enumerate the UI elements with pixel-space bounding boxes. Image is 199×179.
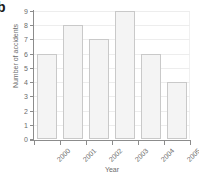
x-axis-tick — [86, 141, 87, 145]
y-axis-tick-label-wrap: 1 — [10, 122, 28, 129]
x-axis-tick — [138, 141, 139, 145]
y-axis-tick-label: 1 — [10, 122, 28, 129]
plot-right-border — [189, 11, 190, 139]
x-axis-tick — [164, 141, 165, 145]
plot-area — [34, 11, 190, 139]
y-axis-tick — [30, 11, 34, 12]
gridline — [34, 39, 190, 40]
gridline — [34, 25, 190, 26]
y-axis-tick-label: 2 — [10, 108, 28, 115]
x-axis-tick-label: 2005 — [186, 147, 199, 164]
x-axis-tick-label: 2001 — [82, 147, 99, 164]
panel-label: b — [0, 0, 6, 14]
x-axis-tick — [60, 141, 61, 145]
x-axis-tick-label: 2000 — [56, 147, 73, 164]
x-axis-tick — [34, 141, 35, 145]
bar — [37, 54, 58, 139]
x-axis-title: Year — [34, 166, 190, 174]
x-axis-line — [30, 140, 191, 141]
bar — [115, 11, 136, 139]
y-axis-tick — [30, 68, 34, 69]
bar — [89, 39, 110, 139]
y-axis-tick-label-wrap: 2 — [10, 108, 28, 115]
y-axis-tick — [30, 39, 34, 40]
y-axis-tick-label: 0 — [10, 136, 28, 143]
y-axis-tick — [30, 111, 34, 112]
y-axis-tick — [30, 54, 34, 55]
bar — [141, 54, 162, 139]
bar — [63, 25, 84, 139]
y-axis-tick — [30, 125, 34, 126]
y-axis-tick — [30, 25, 34, 26]
bar-chart-figure: b 0123456789 Number of accidents 2000200… — [0, 0, 199, 179]
x-axis-tick-label: 2002 — [108, 147, 125, 164]
x-axis-tick — [190, 141, 191, 145]
bar — [167, 82, 188, 139]
y-axis-line — [33, 10, 34, 140]
gridline — [34, 54, 190, 55]
y-axis-tick — [30, 82, 34, 83]
x-axis-tick — [112, 141, 113, 145]
y-axis-tick-label-wrap: 0 — [10, 136, 28, 143]
y-axis-tick — [30, 96, 34, 97]
y-axis-title: Number of accidents — [12, 10, 20, 102]
gridline — [34, 11, 190, 12]
x-axis-tick-label: 2004 — [160, 147, 177, 164]
gridline — [34, 68, 190, 69]
x-axis-tick-label: 2003 — [134, 147, 151, 164]
